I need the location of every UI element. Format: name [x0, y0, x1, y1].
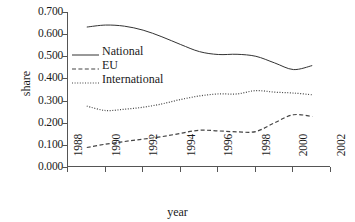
y-tick-label: 0.600 — [3, 28, 63, 40]
x-tick-label: 1988 — [72, 134, 84, 174]
y-tick-label: 0.100 — [3, 139, 63, 151]
x-tick-label: 1992 — [147, 134, 159, 174]
x-tick-mark — [330, 167, 331, 172]
x-tick-mark — [67, 167, 68, 172]
legend-item: International — [72, 72, 202, 86]
x-tick-mark — [217, 167, 218, 172]
legend-item: EU — [72, 58, 202, 72]
y-tick-label: 0.200 — [3, 117, 63, 129]
legend-swatch-national — [72, 46, 99, 56]
chart-screenshot: share 0.0000.1000.2000.3000.4000.5000.60… — [0, 0, 355, 222]
y-tick-label: 0.400 — [3, 72, 63, 84]
legend-label: International — [102, 73, 163, 86]
x-tick-label: 1990 — [110, 134, 122, 174]
series-line-international — [87, 91, 312, 111]
x-axis-label: year — [0, 205, 355, 220]
y-tick-label: 0.700 — [3, 6, 63, 18]
plot-area — [67, 12, 330, 167]
x-tick-label: 2000 — [297, 134, 309, 174]
x-tick-mark — [105, 167, 106, 172]
x-tick-label: 2002 — [335, 134, 347, 174]
legend-label: National — [102, 45, 143, 58]
x-tick-label: 1994 — [185, 134, 197, 174]
y-tick-label: 0.300 — [3, 95, 63, 107]
x-tick-mark — [255, 167, 256, 172]
x-tick-label: 1996 — [222, 134, 234, 174]
x-tick-mark — [180, 167, 181, 172]
y-tick-label: 0.000 — [3, 161, 63, 173]
x-tick-mark — [292, 167, 293, 172]
series-canvas — [68, 12, 331, 167]
legend-swatch-eu — [72, 60, 99, 70]
x-tick-label: 1998 — [260, 134, 272, 174]
x-tick-mark — [142, 167, 143, 172]
legend-label: EU — [102, 59, 118, 72]
legend-item: National — [72, 44, 202, 58]
y-tick-label: 0.500 — [3, 50, 63, 62]
chart-legend: NationalEUInternational — [72, 44, 202, 86]
legend-swatch-international — [72, 74, 99, 84]
